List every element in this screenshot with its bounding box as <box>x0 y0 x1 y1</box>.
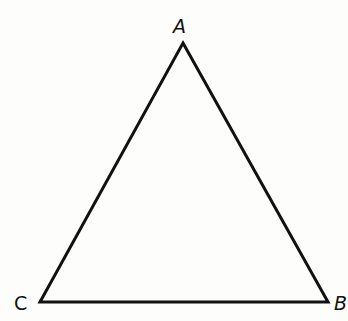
vertex-label-b: B <box>334 294 347 313</box>
vertex-label-c: C <box>14 294 27 313</box>
vertex-label-a: A <box>173 17 186 36</box>
triangle-abc <box>40 43 328 302</box>
triangle-diagram <box>0 0 348 321</box>
